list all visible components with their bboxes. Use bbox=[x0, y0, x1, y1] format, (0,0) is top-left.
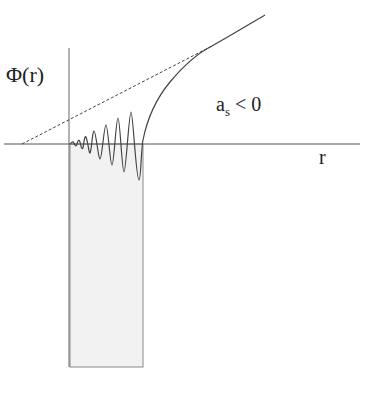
condition-label: as < 0 bbox=[216, 93, 261, 119]
y-axis-label: Φ(r) bbox=[6, 62, 44, 87]
condition-label-rest: < 0 bbox=[230, 93, 261, 115]
condition-label-main: a bbox=[216, 93, 225, 115]
x-axis-label: r bbox=[319, 146, 326, 168]
asymptote-dashed-line bbox=[22, 46, 212, 144]
scattering-length-diagram: Φ(r) r as < 0 bbox=[0, 0, 365, 409]
potential-well bbox=[70, 144, 143, 367]
